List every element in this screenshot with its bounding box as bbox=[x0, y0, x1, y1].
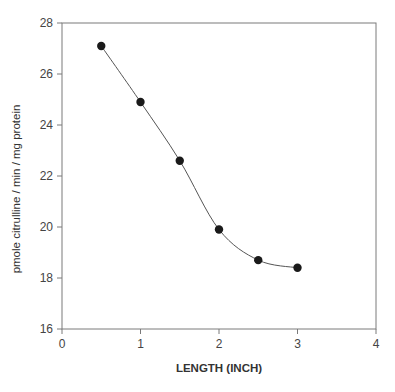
x-tick-label: 2 bbox=[216, 337, 223, 351]
data-point-marker bbox=[136, 98, 144, 106]
x-tick-label: 4 bbox=[373, 337, 380, 351]
data-curve bbox=[101, 46, 297, 268]
y-tick-label: 16 bbox=[40, 322, 54, 336]
data-point-marker bbox=[293, 264, 301, 272]
data-point-marker bbox=[254, 256, 262, 264]
x-axis-title: LENGTH (INCH) bbox=[176, 362, 262, 374]
data-point-marker bbox=[97, 42, 105, 50]
y-tick-label: 20 bbox=[40, 220, 54, 234]
y-tick-label: 18 bbox=[40, 271, 54, 285]
data-point-marker bbox=[176, 157, 184, 165]
data-point-marker bbox=[215, 225, 223, 233]
plot-frame bbox=[62, 23, 376, 329]
y-tick-label: 28 bbox=[40, 16, 54, 30]
x-tick-label: 0 bbox=[59, 337, 66, 351]
line-chart: 16182022242628 01234 LENGTH (INCH) pmole… bbox=[0, 0, 395, 392]
x-axis-ticks: 01234 bbox=[59, 329, 380, 351]
y-tick-label: 26 bbox=[40, 67, 54, 81]
y-axis-ticks: 16182022242628 bbox=[40, 16, 62, 336]
x-tick-label: 3 bbox=[294, 337, 301, 351]
y-axis-title: pmole citrulline / min / mg protein bbox=[10, 105, 22, 274]
y-tick-label: 22 bbox=[40, 169, 54, 183]
x-tick-label: 1 bbox=[137, 337, 144, 351]
y-tick-label: 24 bbox=[40, 118, 54, 132]
data-markers bbox=[97, 42, 302, 272]
